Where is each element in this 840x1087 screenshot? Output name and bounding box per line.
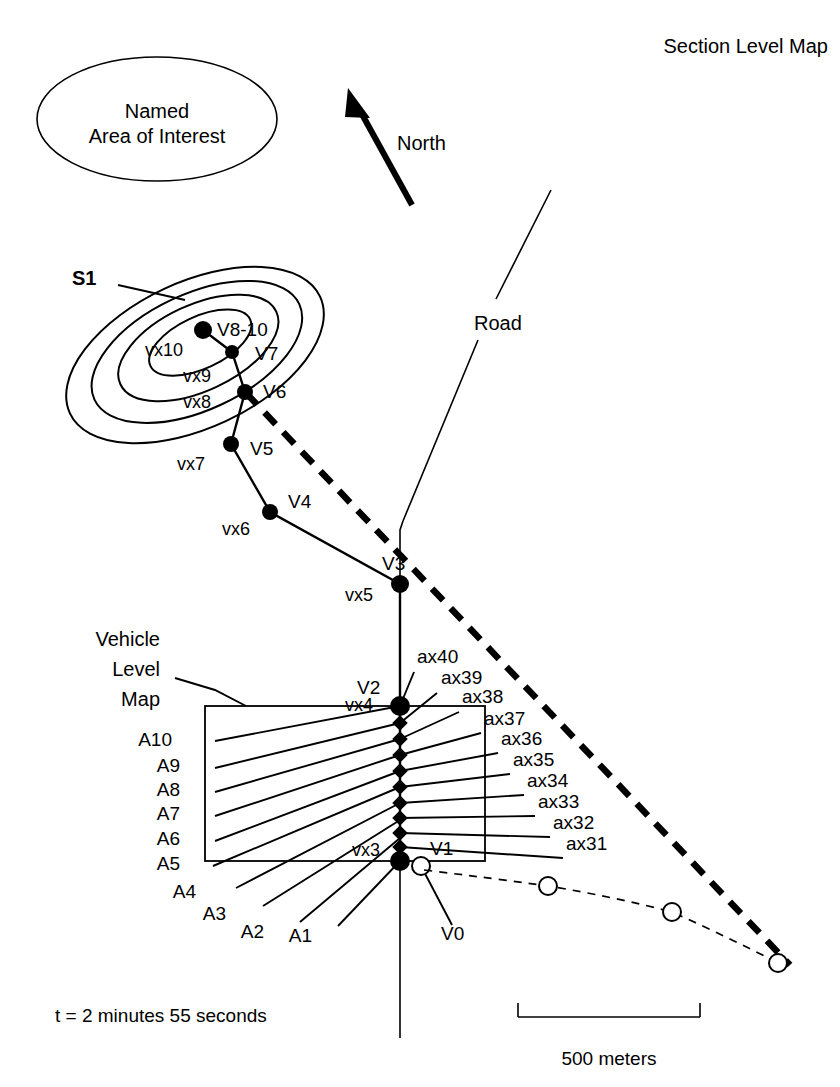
- node-V7-dot: [225, 345, 239, 359]
- node-V4-vx-label: vx6: [222, 519, 250, 539]
- axis-label-A6: A6: [157, 828, 180, 849]
- page-title: Section Level Map: [663, 35, 828, 57]
- axis-label-A2: A2: [241, 921, 264, 942]
- node-V0-label: V0: [441, 923, 464, 944]
- vehicle-level-map-line3: Map: [121, 688, 160, 710]
- node-V6-label: V6: [263, 381, 286, 402]
- leader-ax32: [400, 833, 550, 837]
- track-node-3: [392, 747, 408, 763]
- north-label: North: [397, 132, 446, 154]
- axis-label-A1: A1: [289, 925, 312, 946]
- node-V6-vx-label: vx8: [183, 392, 211, 412]
- north-arrow-head: [345, 88, 370, 118]
- leader-ax34: [400, 795, 524, 803]
- node-V3-label: V3: [382, 553, 405, 574]
- scale-bar: [518, 1003, 700, 1017]
- contour-ring-3: [70, 252, 324, 453]
- track-node-6: [392, 795, 408, 811]
- node-V5-vx-label: vx7: [177, 454, 205, 474]
- node-V4-label: V4: [288, 491, 312, 512]
- axis-label-A3: A3: [203, 903, 226, 924]
- road-line-lower: [403, 340, 478, 521]
- node-V1-vx-label: vx3: [352, 840, 380, 860]
- leader-ax31: [400, 847, 563, 858]
- leader-ax33: [400, 816, 535, 818]
- leader-A1: [338, 861, 400, 926]
- section-level-map-figure: Named Area of Interest Section Level Map…: [0, 0, 840, 1087]
- axis-label-ax36: ax36: [501, 728, 542, 749]
- sector-label-s1: S1: [72, 267, 96, 289]
- vehicle-level-map-line1: Vehicle: [96, 628, 161, 650]
- node-V8-10-vx-label: vx10: [145, 340, 183, 360]
- axis-label-A5: A5: [157, 853, 180, 874]
- leader-A8: [215, 739, 400, 792]
- axis-label-ax38: ax38: [462, 686, 503, 707]
- node-V7-vx-label: vx9: [183, 366, 211, 386]
- section-node-group: V8-10vx10V7vx9V6vx8V5vx7V4vx6V3vx5V2vx4V…: [145, 319, 464, 944]
- track-node-5: [392, 779, 408, 795]
- leader-A9: [215, 723, 400, 768]
- node-V0-marker: [412, 857, 430, 875]
- vehicle-level-map-leader: [175, 678, 246, 706]
- axis-label-ax34: ax34: [527, 770, 569, 791]
- road-label: Road: [474, 312, 522, 334]
- leader-ax35: [400, 774, 510, 787]
- node-V8-10-dot: [194, 321, 212, 339]
- trailing-circle-3: [769, 954, 787, 972]
- node-V6-dot: [237, 384, 253, 400]
- axis-label-ax37: ax37: [484, 708, 525, 729]
- road-line-upper: [496, 190, 551, 299]
- track-node-4: [392, 763, 408, 779]
- axis-label-A9: A9: [157, 755, 180, 776]
- axis-label-A8: A8: [157, 779, 180, 800]
- trailing-track-dashed: [424, 870, 778, 963]
- s1-leader-line: [118, 285, 185, 300]
- node-V3-dot: [391, 575, 409, 593]
- node-V8-10-label: V8-10: [217, 319, 268, 340]
- axis-label-ax40: ax40: [417, 646, 458, 667]
- time-label: t = 2 minutes 55 seconds: [55, 1005, 267, 1026]
- node-V1-label: V1: [430, 838, 453, 859]
- scale-label: 500 meters: [561, 1048, 656, 1069]
- axis-label-ax35: ax35: [513, 749, 554, 770]
- axis-label-A7: A7: [157, 803, 180, 824]
- leader-ax37: [400, 733, 481, 755]
- north-arrow-shaft: [358, 107, 412, 205]
- axis-label-A4: A4: [173, 881, 197, 902]
- axis-label-ax33: ax33: [538, 791, 579, 812]
- map-canvas: Named Area of Interest Section Level Map…: [0, 0, 840, 1087]
- vehicle-level-map-line2: Level: [112, 658, 160, 680]
- axis-label-ax39: ax39: [441, 667, 482, 688]
- leader-ax36: [400, 753, 498, 771]
- named-area-line2: Area of Interest: [89, 125, 226, 147]
- track-node-2: [392, 731, 408, 747]
- node-V4-dot: [262, 504, 278, 520]
- node-V7-label: V7: [255, 343, 278, 364]
- node-V2-dot: [390, 696, 410, 716]
- axis-label-ax32: ax32: [553, 812, 594, 833]
- axis-leaders-left: [213, 706, 400, 926]
- node-V3-vx-label: vx5: [345, 585, 373, 605]
- node-V2-vx-label: vx4: [345, 695, 373, 715]
- axis-label-ax31: ax31: [566, 833, 607, 854]
- node-V5-dot: [223, 436, 239, 452]
- named-area-line1: Named: [125, 100, 189, 122]
- trailing-circle-1: [539, 877, 557, 895]
- node-V5-label: V5: [250, 438, 273, 459]
- axis-label-A10: A10: [138, 729, 172, 750]
- trailing-circle-2: [663, 903, 681, 921]
- sector-boundary-dashed: [246, 393, 790, 965]
- track-node-8: [392, 825, 408, 841]
